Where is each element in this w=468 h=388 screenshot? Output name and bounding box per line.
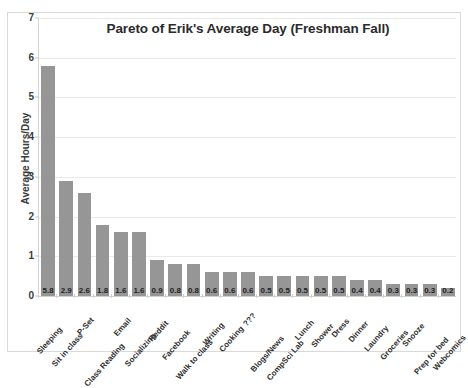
x-axis-category: Socializing [129,298,147,368]
x-tick-mark [165,294,166,298]
x-axis-category: Dinner [347,298,365,368]
x-tick-mark [292,294,293,298]
bar-slot[interactable]: 0.6 [203,18,221,296]
bar-value-label: 0.8 [166,287,184,295]
bar-value-label: 0.4 [366,287,384,295]
bar-slot[interactable]: 0.5 [257,18,275,296]
bar-slot[interactable]: 0.4 [348,18,366,296]
bar-slot[interactable]: 0.3 [421,18,439,296]
bar-slot[interactable]: 0.2 [439,18,457,296]
bar-value-label: 0.3 [421,287,439,295]
bar-value-label: 1.8 [94,287,112,295]
x-tick-mark [329,294,330,298]
bar-slot[interactable]: 2.6 [75,18,93,296]
y-tick-label: 3 [28,172,34,182]
x-tick-mark [401,294,402,298]
bar-slot[interactable]: 0.5 [293,18,311,296]
bar-slot[interactable]: 0.3 [402,18,420,296]
x-axis-category: Sit in class [56,298,74,368]
bar-value-label: 2.9 [57,287,75,295]
x-axis-category: Snooze [401,298,419,368]
bar-value-label: 0.5 [293,287,311,295]
y-axis-title: Average Hours/Day [20,89,31,229]
x-tick-mark [202,294,203,298]
x-tick-mark [56,294,57,298]
bar-value-label: 0.4 [348,287,366,295]
bar[interactable] [78,193,92,296]
x-axis-category: Groceries [383,298,401,368]
x-tick-mark [220,294,221,298]
bar-slot[interactable]: 1.6 [112,18,130,296]
x-tick-mark [129,294,130,298]
x-tick-mark [238,294,239,298]
x-tick-mark [93,294,94,298]
bar-slot[interactable]: 0.8 [184,18,202,296]
bar-series: 5.82.92.61.81.61.60.90.80.80.60.60.60.50… [39,18,456,296]
x-axis-category: Class Reading [93,298,111,368]
bar-slot[interactable]: 0.6 [221,18,239,296]
bar-slot[interactable]: 0.5 [330,18,348,296]
x-tick-mark [383,294,384,298]
x-axis-category: Shower [311,298,329,368]
x-axis-category: ??? [238,298,256,368]
bar-value-label: 0.3 [384,287,402,295]
bar-slot[interactable]: 1.8 [94,18,112,296]
bar-slot[interactable]: 0.5 [312,18,330,296]
y-tick-label: 5 [28,92,34,102]
bar-slot[interactable]: 0.3 [384,18,402,296]
x-axis-category: CompSci Lab [274,298,292,368]
y-tick-label: 7 [28,13,34,23]
x-axis-category: Blogs/News [256,298,274,368]
x-axis-category: Webcomics [438,298,456,368]
x-tick-mark [38,294,39,298]
bar-value-label: 0.5 [257,287,275,295]
x-axis-category: Cooking [220,298,238,368]
x-tick-mark [147,294,148,298]
x-tick-mark [183,294,184,298]
bar-value-label: 1.6 [112,287,130,295]
x-tick-mark [420,294,421,298]
y-tick-label: 4 [28,132,34,142]
bar-value-label: 1.6 [130,287,148,295]
y-tick-label: 6 [28,53,34,63]
bar-value-label: 0.5 [275,287,293,295]
bar-slot[interactable]: 5.8 [39,18,57,296]
x-tick-mark [347,294,348,298]
bar-value-label: 0.9 [148,287,166,295]
bar-value-label: 0.2 [439,287,457,295]
bar[interactable] [59,181,73,296]
x-tick-mark [274,294,275,298]
bar[interactable] [41,66,55,296]
gridline [39,296,456,297]
bar-value-label: 0.3 [402,287,420,295]
x-axis-category: P-Set [74,298,92,368]
x-tick-mark [74,294,75,298]
bar-slot[interactable]: 2.9 [57,18,75,296]
bar-value-label: 5.8 [39,287,57,295]
bar-slot[interactable]: 0.6 [239,18,257,296]
bar-value-label: 0.8 [184,287,202,295]
x-axis-category: Facebook [165,298,183,368]
bar-slot[interactable]: 0.9 [148,18,166,296]
x-tick-mark [438,294,439,298]
bar-value-label: 0.6 [203,287,221,295]
y-tick-label: 1 [28,251,34,261]
bar-value-label: 0.5 [330,287,348,295]
bar-slot[interactable]: 0.5 [275,18,293,296]
bar-slot[interactable]: 0.4 [366,18,384,296]
x-axis-category: Dress [329,298,347,368]
x-axis-category: Prep for bed [420,298,438,368]
bar-value-label: 0.5 [312,287,330,295]
bar-slot[interactable]: 0.8 [166,18,184,296]
y-tick-label: 2 [28,212,34,222]
x-tick-mark [256,294,257,298]
y-tick-label: 0 [28,291,34,301]
bar-value-label: 0.6 [221,287,239,295]
x-tick-mark [111,294,112,298]
x-axis-category: Writing [202,298,220,368]
x-axis-category: Lunch [292,298,310,368]
bar-slot[interactable]: 1.6 [130,18,148,296]
chart-container: Pareto of Erik's Average Day (Freshman F… [7,12,461,352]
plot-area: 01234567 5.82.92.61.81.61.60.90.80.80.60… [38,18,456,296]
x-axis-category: Walk to class [183,298,201,368]
